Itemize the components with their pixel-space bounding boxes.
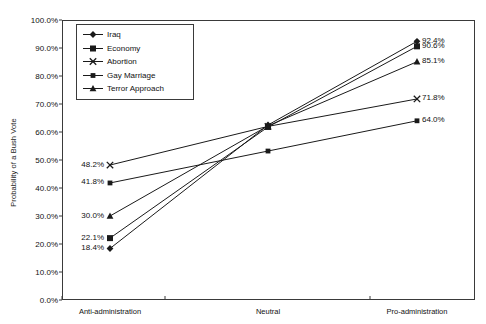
legend-marker-icon: [82, 43, 104, 54]
legend-marker-icon: [82, 83, 104, 94]
data-point-label: 22.1%: [0, 233, 104, 242]
series-marker: [91, 73, 96, 78]
series-marker: [90, 31, 97, 38]
series-line: [110, 99, 417, 165]
data-point-label: 90.6%: [422, 41, 445, 50]
legend-marker-icon: [82, 29, 104, 40]
legend-item-terror-approach[interactable]: Terror Approach: [82, 82, 187, 96]
series-marker: [266, 149, 271, 154]
series-marker: [90, 45, 96, 51]
data-point-label: 85.1%: [422, 56, 445, 65]
data-point-label: 71.8%: [422, 93, 445, 102]
data-point-label: 41.8%: [0, 177, 104, 186]
legend-item-label: Abortion: [104, 57, 137, 66]
legend-item-iraq[interactable]: Iraq: [82, 28, 187, 42]
legend-item-abortion[interactable]: Abortion: [82, 55, 187, 69]
series-marker: [108, 181, 113, 186]
legend-item-label: Gay Marriage: [104, 71, 155, 80]
data-point-label: 48.2%: [0, 160, 104, 169]
legend-marker-icon: [82, 56, 104, 67]
series-marker: [414, 58, 421, 64]
series-marker: [415, 118, 420, 123]
legend-item-label: Economy: [104, 44, 140, 53]
data-point-label: 18.4%: [0, 243, 104, 252]
legend-item-label: Terror Approach: [104, 84, 164, 93]
legend-marker-icon: [82, 70, 104, 81]
line-chart: Probability of a Bush Vote 100.0%90.0%80…: [0, 0, 486, 324]
legend-item-economy[interactable]: Economy: [82, 42, 187, 56]
series-marker: [107, 235, 113, 241]
chart-legend: IraqEconomyAbortionGay MarriageTerror Ap…: [76, 24, 194, 100]
legend-item-label: Iraq: [104, 30, 121, 39]
series-marker: [107, 162, 113, 168]
data-point-label: 30.0%: [0, 211, 104, 220]
data-point-label: 64.0%: [422, 115, 445, 124]
legend-item-gay-marriage[interactable]: Gay Marriage: [82, 69, 187, 83]
series-marker: [107, 212, 114, 218]
series-marker: [414, 43, 420, 49]
